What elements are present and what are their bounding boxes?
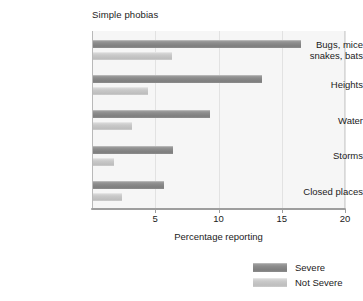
category-label-0: Bugs, mice snakes, bats xyxy=(277,39,363,61)
tick-label-20: 20 xyxy=(340,213,351,224)
bar-not-severe-3 xyxy=(92,158,114,166)
category-label-4: Closed places xyxy=(277,186,363,197)
legend-swatch-severe xyxy=(253,263,287,272)
legend-label-not-severe: Not Severe xyxy=(295,277,343,288)
tick-label-5: 5 xyxy=(153,213,158,224)
bar-not-severe-2 xyxy=(92,122,132,130)
bar-not-severe-1 xyxy=(92,87,148,95)
bar-not-severe-4 xyxy=(92,193,122,201)
bar-severe-1 xyxy=(92,75,262,83)
y-axis-line xyxy=(92,31,93,208)
legend-swatch-not-severe xyxy=(253,278,287,287)
category-label-1: Heights xyxy=(277,79,363,90)
bar-severe-3 xyxy=(92,146,173,154)
bar-severe-4 xyxy=(92,181,164,189)
gridline-x-10 xyxy=(219,31,220,208)
chart-legend: SevereNot Severe xyxy=(253,261,343,291)
legend-label-severe: Severe xyxy=(295,262,325,273)
x-axis-title: Percentage reporting xyxy=(92,231,345,242)
tick-label-15: 15 xyxy=(276,213,287,224)
chart-title: Simple phobias xyxy=(92,9,158,20)
bar-not-severe-0 xyxy=(92,52,172,60)
bar-severe-2 xyxy=(92,110,210,118)
legend-item-not-severe: Not Severe xyxy=(253,276,343,289)
category-label-2: Water xyxy=(277,115,363,126)
legend-item-severe: Severe xyxy=(253,261,343,274)
bar-severe-0 xyxy=(92,40,301,48)
tick-label-10: 10 xyxy=(213,213,224,224)
category-label-3: Storms xyxy=(277,150,363,161)
